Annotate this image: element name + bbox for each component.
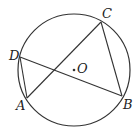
geometry-diagram: O A B C D (0, 0, 140, 132)
label-c: C (102, 6, 112, 21)
label-b: B (122, 97, 133, 112)
segment-ac (27, 22, 101, 98)
center-point-o (73, 69, 76, 72)
label-a: A (15, 98, 25, 113)
segment-ad (20, 57, 27, 98)
label-o: O (77, 61, 88, 76)
segment-cb (101, 22, 122, 96)
label-d: D (8, 48, 20, 63)
